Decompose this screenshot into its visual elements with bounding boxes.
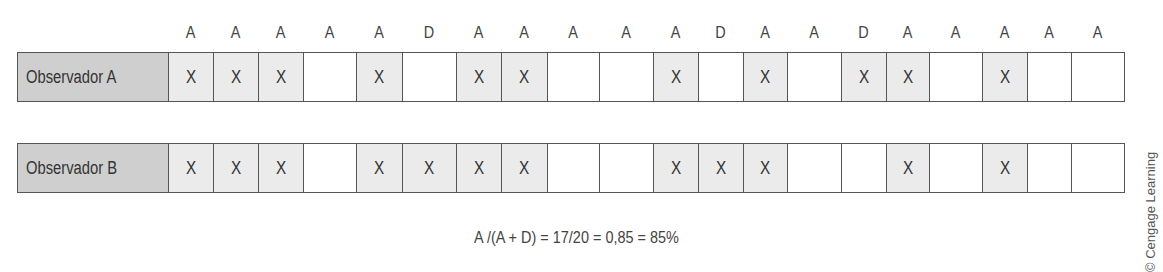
header-letter: D xyxy=(701,20,739,46)
cell-mark: X xyxy=(1000,53,1010,101)
cell-mark: X xyxy=(374,53,384,101)
interval-cell: X xyxy=(168,143,214,193)
interval-cell: X xyxy=(213,143,259,193)
interval-cell: X xyxy=(698,143,744,193)
cell-mark: X xyxy=(374,144,384,192)
interval-cell xyxy=(787,52,842,102)
interval-cell: X xyxy=(356,143,403,193)
header-letter: A xyxy=(1075,20,1120,46)
cell-mark: X xyxy=(186,144,196,192)
interval-cell: X xyxy=(258,143,304,193)
header-letter: A xyxy=(171,20,209,46)
formula-text: A /(A + D) = 17/20 = 0,85 = 85% xyxy=(474,228,679,248)
header-letter: A xyxy=(791,20,837,46)
cell-mark: X xyxy=(186,53,196,101)
interval-cell xyxy=(599,52,654,102)
interval-cell xyxy=(787,143,842,193)
observer-label-text: Observador A xyxy=(26,53,116,101)
interval-cell xyxy=(303,52,357,102)
interval-cell xyxy=(698,52,744,102)
header-letter: A xyxy=(985,20,1023,46)
interval-cell xyxy=(929,52,983,102)
cell-mark: X xyxy=(276,53,286,101)
interval-cell: X xyxy=(258,52,304,102)
cell-mark: X xyxy=(716,144,726,192)
interval-cell xyxy=(599,143,654,193)
cell-mark: X xyxy=(474,144,484,192)
interval-cell: X xyxy=(456,143,502,193)
interval-cell: X xyxy=(841,52,887,102)
header-letter: A xyxy=(551,20,595,46)
cell-mark: X xyxy=(760,144,770,192)
interval-cell: X xyxy=(982,52,1028,102)
interval-cell xyxy=(1027,52,1072,102)
cell-mark: X xyxy=(519,144,529,192)
interval-cell: X xyxy=(168,52,214,102)
interval-cell: X xyxy=(356,52,403,102)
interval-cell: X xyxy=(653,143,699,193)
interval-cell: X xyxy=(213,52,259,102)
cell-mark: X xyxy=(671,53,681,101)
header-letter: A xyxy=(1030,20,1067,46)
copyright-credit: © Cengage Learning xyxy=(1143,172,1163,272)
interval-cell xyxy=(1071,52,1125,102)
header-letter: A xyxy=(504,20,543,46)
interval-cell xyxy=(402,52,457,102)
interval-cell xyxy=(841,143,887,193)
interval-cell xyxy=(547,143,600,193)
interval-cell: X xyxy=(653,52,699,102)
header-letter: D xyxy=(406,20,452,46)
header-letter: A xyxy=(746,20,783,46)
cell-mark: X xyxy=(519,53,529,101)
cell-mark: X xyxy=(424,144,434,192)
header-letter: A xyxy=(216,20,254,46)
cell-mark: X xyxy=(903,53,913,101)
header-letter: A xyxy=(889,20,926,46)
header-letter: A xyxy=(307,20,352,46)
interval-cell xyxy=(929,143,983,193)
header-letter: D xyxy=(844,20,882,46)
cell-mark: X xyxy=(903,144,913,192)
header-letter: A xyxy=(933,20,978,46)
interval-cell: X xyxy=(886,52,930,102)
observer-label-text: Observador B xyxy=(26,144,117,192)
interval-cell: X xyxy=(501,143,548,193)
header-letter: A xyxy=(459,20,497,46)
cell-mark: X xyxy=(671,144,681,192)
interval-cell: X xyxy=(982,143,1028,193)
interval-cell: X xyxy=(743,143,788,193)
cell-mark: X xyxy=(231,144,241,192)
header-letter: A xyxy=(359,20,398,46)
interval-cell: X xyxy=(501,52,548,102)
interval-cell xyxy=(1071,143,1125,193)
header-letter: A xyxy=(603,20,649,46)
interval-cell xyxy=(547,52,600,102)
observer-label: Observador B xyxy=(17,143,169,193)
cell-mark: X xyxy=(474,53,484,101)
observer-label: Observador A xyxy=(17,52,169,102)
cell-mark: X xyxy=(1000,144,1010,192)
interval-cell: X xyxy=(456,52,502,102)
interval-cell: X xyxy=(886,143,930,193)
interval-cell xyxy=(303,143,357,193)
interval-cell: X xyxy=(743,52,788,102)
interval-cell: X xyxy=(402,143,457,193)
interval-cell xyxy=(1027,143,1072,193)
cell-mark: X xyxy=(859,53,869,101)
cell-mark: X xyxy=(276,144,286,192)
cell-mark: X xyxy=(760,53,770,101)
header-letter: A xyxy=(261,20,299,46)
cell-mark: X xyxy=(231,53,241,101)
agreement-formula: A /(A + D) = 17/20 = 0,85 = 85% xyxy=(0,228,1153,248)
header-letter: A xyxy=(656,20,694,46)
